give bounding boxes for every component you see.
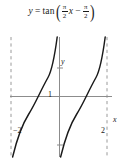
- graph-plot: [0, 28, 123, 158]
- x-tick-label-negative-2: −2: [13, 127, 22, 135]
- tangent-graph-figure: { "figure": { "equation": { "lhs": "y", …: [0, 0, 123, 158]
- equation-equals-sign: =: [33, 7, 42, 17]
- coefficient-numerator: π: [62, 4, 68, 11]
- phase-numerator: π: [83, 4, 89, 11]
- equation-minus-sign: −: [74, 7, 83, 17]
- phase-denominator: 2: [83, 12, 89, 19]
- equation-function-name: tan: [42, 7, 55, 17]
- graph-canvas: y x −2 2 1 −2: [0, 28, 123, 158]
- y-tick-label-1: 1: [48, 91, 52, 99]
- equation-coefficient-fraction: π 2: [62, 4, 68, 20]
- x-axis-label: x: [113, 116, 117, 124]
- x-tick-label-2: 2: [101, 127, 105, 135]
- y-axis-label: y: [61, 58, 65, 66]
- coefficient-denominator: 2: [62, 12, 68, 19]
- equation-phase-fraction: π 2: [83, 4, 89, 20]
- equation-expression: y = tan ( π 2 x − π 2 ): [0, 4, 123, 20]
